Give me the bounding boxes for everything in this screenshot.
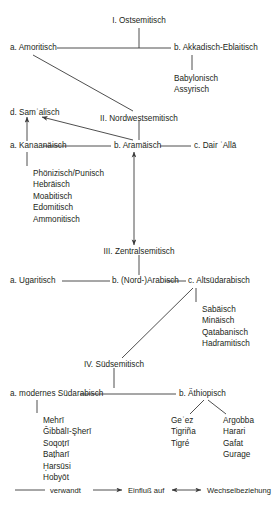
node-akkadisch-eblaitisch: b. Akkadisch-Eblaitisch bbox=[174, 43, 258, 53]
node-suedsemitisch: IV. Südsemitisch bbox=[84, 360, 144, 370]
group-item: Ǧibbālī-Şherī bbox=[43, 426, 91, 437]
group-item: Mehrī bbox=[43, 415, 91, 426]
group-item: Harari bbox=[223, 426, 254, 437]
node-aethiopisch: b. Äthiopisch bbox=[179, 389, 226, 399]
group-item: Moabitisch bbox=[33, 191, 104, 202]
group-item: Assyrisch bbox=[174, 84, 218, 95]
group-item: Baṭharī bbox=[43, 449, 91, 460]
node-dair-alla: c. Dair ʿAllā bbox=[194, 141, 236, 151]
node-altsuedarabisch: c. Altsüdarabisch bbox=[188, 276, 250, 286]
node-nordwestsemitisch: II. Nordwestsemitisch bbox=[100, 114, 178, 124]
group-item: Phönizisch/Punisch bbox=[33, 168, 104, 179]
group-item: Edomitisch bbox=[33, 202, 104, 213]
group-modernes-suedarabisch-children: Mehrī Ǧibbālī-Şherī Soqoṭrī Baṭharī Ḥars… bbox=[43, 415, 91, 483]
node-ugaritisch: a. Ugaritisch bbox=[10, 276, 56, 286]
group-item: Argobba bbox=[223, 415, 254, 426]
node-samalisch: d. Samʾalisch bbox=[10, 108, 60, 118]
group-akkadisch-children: Babylonisch Assyrisch bbox=[174, 73, 218, 96]
edge-aethiopisch-south bbox=[208, 400, 226, 414]
group-altsuedarabisch-children: Sabäisch Minäisch Qatabanisch Hadramitis… bbox=[202, 304, 250, 350]
group-item: Sabäisch bbox=[202, 304, 250, 315]
group-item: Ḥarsūsi bbox=[43, 461, 91, 472]
edge-aethiopisch-north bbox=[190, 400, 204, 414]
group-item: Minäisch bbox=[202, 315, 250, 326]
node-amoritisch: a. Amoritisch bbox=[10, 43, 57, 53]
node-ostsemitisch: I. Ostsemitisch bbox=[112, 16, 166, 26]
group-item: Ammonitisch bbox=[33, 214, 104, 225]
group-item: Geʿez bbox=[171, 415, 196, 426]
legend-label-einfluss-auf: Einfluß auf bbox=[128, 486, 164, 495]
node-modernes-suedarabisch: a. modernes Südarabisch bbox=[10, 389, 103, 399]
group-item: Gurage bbox=[223, 449, 254, 460]
group-item: Soqoṭrī bbox=[43, 438, 91, 449]
group-item: Hebräisch bbox=[33, 179, 104, 190]
edge-altsuedarabisch-suedsemitisch bbox=[122, 288, 193, 358]
group-aethiopisch-north: Geʿez Tigriña Tigré bbox=[171, 415, 196, 449]
group-item: Tigriña bbox=[171, 426, 196, 437]
node-kanaanaeisch: a. Kanaanäisch bbox=[10, 141, 66, 151]
legend-label-wechselbeziehung: Wechselbeziehung bbox=[207, 486, 271, 495]
edge-amoritisch-nordwestsemitisch bbox=[33, 55, 133, 111]
group-item: Tigré bbox=[171, 438, 196, 449]
group-item: Gafat bbox=[223, 438, 254, 449]
group-kanaanaeisch-children: Phönizisch/Punisch Hebräisch Moabitisch … bbox=[33, 168, 104, 225]
group-aethiopisch-south: Argobba Harari Gafat Gurage bbox=[223, 415, 254, 461]
node-aramaeisch: b. Aramäisch bbox=[114, 141, 161, 151]
group-item: Qatabanisch bbox=[202, 327, 250, 338]
group-item: Hobyōt bbox=[43, 472, 91, 483]
group-item: Babylonisch bbox=[174, 73, 218, 84]
node-nord-arabisch: b. (Nord-)Arabisch bbox=[112, 276, 179, 286]
legend-label-verwandt: verwandt bbox=[50, 486, 81, 495]
group-item: Hadramitisch bbox=[202, 338, 250, 349]
node-zentralsemitisch: III. Zentralsemitisch bbox=[104, 247, 175, 257]
